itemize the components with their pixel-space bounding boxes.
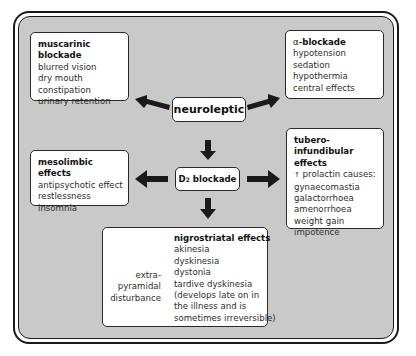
d2-suffix: blockade [190, 174, 237, 184]
mesolimbic-title: mesolimbic effects [38, 157, 122, 180]
extrapyramidal-label: extra- pyramidal disturbance [110, 270, 161, 304]
tubero-intro-text: prolactin causes: [303, 169, 376, 179]
muscarinic-item: dry mouth [38, 73, 122, 84]
nigrostriatal-item: tardive dyskinesia [174, 279, 276, 290]
increase-arrow-icon: ↑ [294, 171, 300, 179]
muscarinic-item: urinary retention [38, 96, 122, 107]
tubero-item: amenorrhoea [294, 204, 377, 215]
arrow-to-alpha-icon [247, 94, 280, 110]
alpha-title-text: -blockade [299, 37, 346, 47]
arrow-to-d2-icon [200, 140, 216, 160]
nigrostriatal-title: nigrostriatal effects [174, 233, 276, 244]
tubero-title-line1: tubero-infundibular [294, 135, 377, 158]
mesolimbic-item: restlessness [38, 191, 122, 202]
alpha-blockade-box: α-blockade hypotension sedation hypother… [285, 30, 384, 99]
nigrostriatal-item: the illness and is [174, 301, 276, 312]
extrapyramidal-label-line: pyramidal [110, 281, 161, 292]
extrapyramidal-label-line: disturbance [110, 293, 161, 304]
tubero-item: gynaecomastia [294, 182, 377, 193]
muscarinic-item: constipation [38, 85, 122, 96]
mesolimbic-item: antipsychotic effect [38, 180, 122, 191]
extrapyramidal-label-line: extra- [110, 270, 161, 281]
tubero-infundibular-box: tubero-infundibular effects ↑ prolactin … [286, 128, 384, 229]
nigrostriatal-item: dystonia [174, 267, 276, 278]
alpha-item: hypothermia [293, 71, 377, 82]
nigrostriatal-item: akinesia [174, 244, 276, 255]
tubero-item: weight gain [294, 216, 377, 227]
mesolimbic-effects-box: mesolimbic effects antipsychotic effect … [30, 150, 129, 206]
arrow-to-nigrostriatal-icon [200, 198, 216, 219]
tubero-intro: ↑ prolactin causes: [294, 169, 377, 181]
nigrostriatal-item: sometimes irreversible) [174, 313, 276, 324]
alpha-title: α-blockade [293, 37, 377, 48]
nigrostriatal-item: (develops late on in [174, 290, 276, 301]
arrow-to-tubero-icon [247, 170, 280, 188]
alpha-item: hypotension [293, 48, 377, 59]
muscarinic-title: muscarinic blockade [38, 39, 122, 62]
d2-prefix: D [179, 174, 186, 184]
tubero-title-line2: effects [294, 158, 377, 169]
muscarinic-item: blurred vision [38, 62, 122, 73]
arrow-to-muscarinic-icon [135, 95, 170, 110]
neuroleptic-label: neuroleptic [174, 103, 245, 116]
tubero-item: impotence [294, 227, 377, 238]
arrow-to-mesolimbic-icon [135, 170, 168, 188]
muscarinic-blockade-box: muscarinic blockade blurred vision dry m… [30, 32, 129, 101]
d2-blockade-node: D2 blockade [175, 167, 240, 191]
alpha-item: sedation [293, 60, 377, 71]
mesolimbic-item: insomnia [38, 203, 122, 214]
nigrostriatal-item: dyskinesia [174, 256, 276, 267]
alpha-item: central effects [293, 83, 377, 94]
nigrostriatal-effects-box: nigrostriatal effects akinesia dyskinesi… [102, 227, 268, 327]
neuroleptic-node: neuroleptic [172, 97, 246, 122]
tubero-item: galactorrhoea [294, 193, 377, 204]
